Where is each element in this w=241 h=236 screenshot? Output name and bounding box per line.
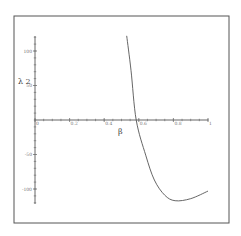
- x-tick-label: 0.4: [105, 121, 112, 126]
- x-tick-label: 1: [209, 121, 212, 126]
- x-axis-label: β: [118, 127, 123, 136]
- y-tick-label: -100: [22, 187, 32, 192]
- x-tick-label: 0.8: [174, 121, 181, 126]
- x-tick-label: 0.6: [140, 121, 147, 126]
- chart: 00.20.40.60.8110050-50-100 β λ 2: [0, 0, 241, 236]
- y-tick-label: -50: [25, 152, 32, 157]
- y-tick-label: 100: [23, 49, 32, 54]
- x-tick-label: 0: [36, 121, 39, 126]
- y-axis-label: λ 2: [18, 77, 31, 86]
- x-tick-label: 0.2: [71, 121, 78, 126]
